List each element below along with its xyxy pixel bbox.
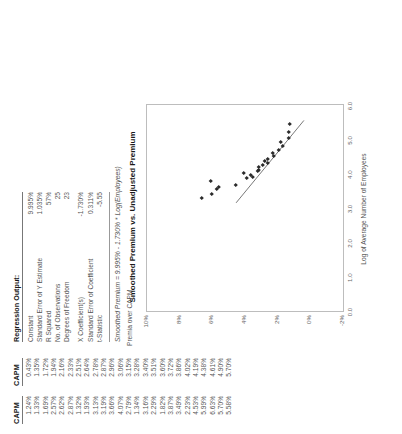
- regression-row: t-Statistic-5.55: [95, 192, 104, 342]
- capm-unadjusted-cell: 3.66%: [108, 396, 116, 424]
- chart-y-tick-label: 8%: [175, 315, 182, 342]
- chart-y-tick-label: -2%: [338, 315, 345, 342]
- regression-row-label: Standard Error of Y Estimate: [35, 258, 44, 342]
- capm-unadjusted-cell: 5.58%: [225, 396, 233, 424]
- capm-unadjusted-cell: 1.69%: [42, 396, 50, 424]
- chart-y-tick-label: 6%: [207, 315, 214, 342]
- capm-unadjusted-cell: 1.24%: [25, 396, 33, 424]
- regression-output-block: Regression Output: Constant9.995%Standar…: [12, 192, 121, 342]
- regression-row: X Coefficient(s)-1.730%: [76, 192, 85, 342]
- capm-unadjusted-cell: 1.34%: [133, 396, 141, 424]
- regression-row-value: 1.035%: [35, 192, 44, 220]
- capm-smoothed-cell: 2.51%: [75, 358, 83, 386]
- chart-x-tick-label: 4.0: [346, 164, 353, 186]
- regression-row-value: 57%: [44, 192, 53, 211]
- capm-unadjusted-cell: 3.16%: [142, 396, 150, 424]
- chart-x-tick-label: 2.0: [346, 232, 353, 254]
- regression-row-label: Constant: [26, 316, 35, 342]
- capm-smoothed-cell: 3.86%: [175, 358, 183, 386]
- regression-row: R Squared57%: [44, 192, 53, 342]
- capm-smoothed-cell: 1.35%: [33, 358, 41, 386]
- chart-x-tick-label: 3.0: [346, 198, 353, 220]
- capm-smoothed-cell: 4.61%: [209, 358, 217, 386]
- regression-row-label: X Coefficient(s): [76, 297, 85, 342]
- capm-smoothed-cell: 4.90%: [217, 358, 225, 386]
- capm-unadjusted-cell: 3.13%: [92, 396, 100, 424]
- capm-smoothed-cell: 3.72%: [167, 358, 175, 386]
- chart-y-tick-label: 10%: [142, 315, 149, 342]
- rotated-page-wrapper: CAPM 1.24%1.33%1.69%2.57%2.62%2.87%1.32%…: [0, 0, 402, 434]
- regression-row: No. of Observations25: [53, 192, 62, 342]
- chart-x-tick-label: 6.0: [346, 95, 353, 117]
- capm-unadjusted-cell: 2.87%: [67, 396, 75, 424]
- chart-x-axis-label: Log of Average Number of Employees: [360, 106, 367, 312]
- chart-x-tick-label: 0.0: [346, 301, 353, 323]
- capm-smoothed-cell: 3.06%: [117, 358, 125, 386]
- regression-output-title: Regression Output:: [12, 192, 23, 342]
- capm-unadjusted-cell: 1.82%: [159, 396, 167, 424]
- capm-smoothed-values: 0.43%1.35%1.72%1.94%2.16%2.33%2.51%2.64%…: [25, 358, 234, 386]
- capm-unadjusted-cell: 5.99%: [200, 396, 208, 424]
- regression-row: Standard Error of Y Estimate1.035%: [35, 192, 44, 342]
- capm-unadjusted-cell: 2.29%: [150, 396, 158, 424]
- capm-unadjusted-values: 1.24%1.33%1.69%2.57%2.62%2.87%1.32%1.93%…: [25, 396, 234, 424]
- regression-equation: Smoothed Premium = 9.995% - 1.730% * Log…: [109, 192, 121, 342]
- capm-unadjusted-cell: 6.63%: [209, 396, 217, 424]
- scatter-chart: Smoothed Premium vs. Unadjusted Premium …: [128, 92, 380, 342]
- regression-row-label: R Squared: [44, 310, 53, 342]
- capm-smoothed-cell: 4.02%: [184, 358, 192, 386]
- chart-y-axis-label: Premia over CAPM: [126, 290, 133, 346]
- regression-row-label: No. of Observations: [53, 284, 62, 342]
- regression-row: Standard Error of Coefficient0.311%: [86, 192, 95, 342]
- capm-smoothed-cell: 2.16%: [58, 358, 66, 386]
- chart-x-tick-label: 1.0: [346, 267, 353, 289]
- capm-unadjusted-cell: 3.19%: [100, 396, 108, 424]
- capm-unadjusted-cell: 4.53%: [192, 396, 200, 424]
- capm-unadjusted-cell: 2.79%: [125, 396, 133, 424]
- capm-unadjusted-header: CAPM: [12, 396, 23, 424]
- capm-smoothed-cell: 4.38%: [200, 358, 208, 386]
- capm-smoothed-cell: 2.64%: [83, 358, 91, 386]
- chart-x-tick-label: 5.0: [346, 129, 353, 151]
- capm-smoothed-header: CAPM: [12, 358, 23, 386]
- regression-row-label: Standard Error of Coefficient: [86, 259, 95, 342]
- capm-unadjusted-cell: 4.07%: [117, 396, 125, 424]
- capm-smoothed-cell: 2.96%: [108, 358, 116, 386]
- capm-unadjusted-column: CAPM 1.24%1.33%1.69%2.57%2.62%2.87%1.32%…: [12, 396, 234, 424]
- capm-unadjusted-cell: 3.87%: [167, 396, 175, 424]
- chart-y-tick-label: 2%: [273, 315, 280, 342]
- chart-trendline: [147, 105, 343, 311]
- regression-stats-group-2: X Coefficient(s)-1.730%Standard Error of…: [76, 192, 103, 342]
- capm-unadjusted-cell: 1.33%: [33, 396, 41, 424]
- capm-smoothed-cell: 2.33%: [67, 358, 75, 386]
- capm-smoothed-column: CAPM 0.43%1.35%1.72%1.94%2.16%2.33%2.51%…: [12, 358, 234, 386]
- regression-row-value: 9.995%: [26, 192, 35, 220]
- regression-row-value: 23: [62, 192, 71, 205]
- capm-unadjusted-cell: 5.70%: [217, 396, 225, 424]
- capm-smoothed-cell: 0.43%: [25, 358, 33, 386]
- capm-smoothed-cell: 3.40%: [142, 358, 150, 386]
- capm-unadjusted-cell: 1.32%: [75, 396, 83, 424]
- capm-unadjusted-cell: 1.93%: [83, 396, 91, 424]
- capm-smoothed-cell: 2.78%: [92, 358, 100, 386]
- capm-smoothed-cell: 3.28%: [133, 358, 141, 386]
- regression-row-label: t-Statistic: [95, 315, 104, 342]
- capm-smoothed-cell: 4.19%: [192, 358, 200, 386]
- capm-smoothed-cell: 3.15%: [125, 358, 133, 386]
- regression-row-label: Degrees of Freedom: [62, 282, 71, 342]
- capm-smoothed-cell: 3.60%: [159, 358, 167, 386]
- report-page: CAPM 1.24%1.33%1.69%2.57%2.62%2.87%1.32%…: [0, 0, 402, 434]
- capm-smoothed-cell: 2.87%: [100, 358, 108, 386]
- regression-row-value: -5.55: [95, 192, 104, 213]
- chart-plot-area: [146, 104, 344, 312]
- capm-smoothed-cell: 3.51%: [150, 358, 158, 386]
- chart-y-tick-label: 0%: [305, 315, 312, 342]
- capm-smoothed-cell: 5.70%: [225, 358, 233, 386]
- capm-unadjusted-cell: 2.62%: [58, 396, 66, 424]
- regression-row-value: 0.311%: [86, 192, 95, 220]
- capm-unadjusted-cell: 3.49%: [175, 396, 183, 424]
- regression-row: Degrees of Freedom23: [62, 192, 71, 342]
- regression-row-value: 25: [53, 192, 62, 205]
- capm-smoothed-cell: 1.94%: [50, 358, 58, 386]
- regression-stats-group-1: Constant9.995%Standard Error of Y Estima…: [26, 192, 71, 342]
